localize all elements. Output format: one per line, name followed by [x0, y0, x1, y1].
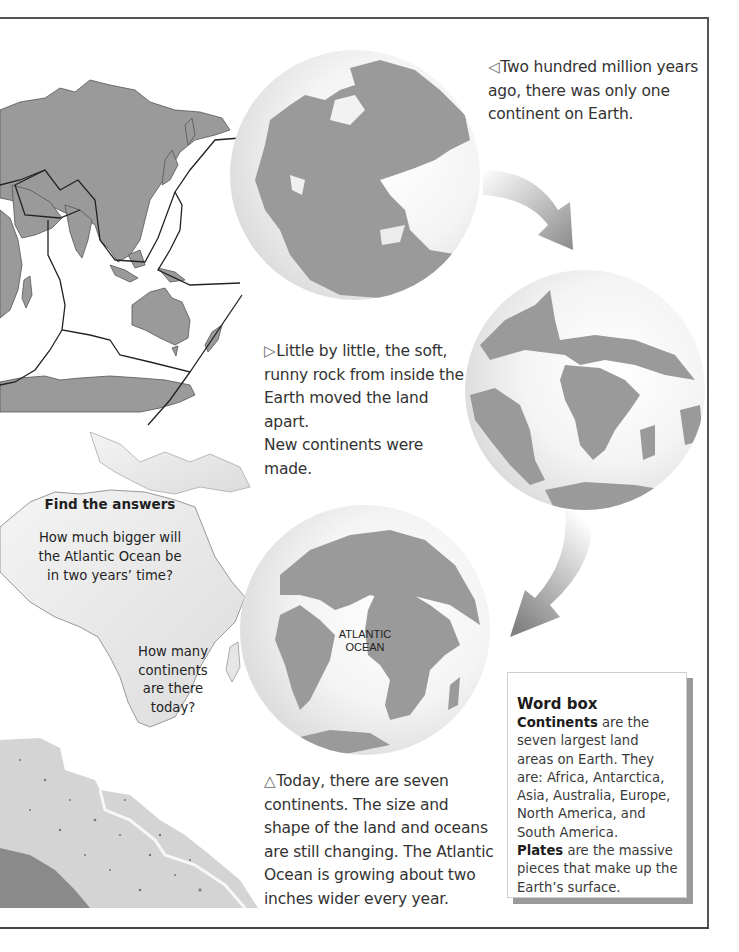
question-atlantic-growth: How much bigger will the Atlantic Ocean …	[20, 528, 200, 585]
globe-splitting-continents	[465, 270, 705, 510]
find-answers-panel: Find the answers How much bigger will th…	[20, 495, 200, 585]
word-box-entry-continents: Continents are the seven largest land ar…	[517, 714, 678, 842]
triangle-left-icon: ◁	[488, 58, 499, 76]
arrow-to-today-globe	[505, 505, 615, 645]
seafloor-terrain	[0, 720, 270, 910]
word-box: Word box Continents are the seven larges…	[507, 672, 687, 898]
page-border-bottom	[0, 927, 709, 929]
find-answers-title: Find the answers	[20, 495, 200, 514]
page-border-right	[707, 17, 709, 929]
caption-pangaea: ◁Two hundred million years ago, there wa…	[488, 56, 708, 127]
plate-boundary-map	[0, 40, 245, 432]
atlantic-ocean-label: ATLANTIC OCEAN	[325, 628, 405, 654]
caption-splitting: ▷Little by little, the soft, runny rock …	[264, 340, 474, 481]
caption-today: △Today, there are seven continents. The …	[264, 770, 504, 911]
globe-today: ATLANTIC OCEAN	[240, 505, 490, 755]
word-box-entry-plates: Plates are the massive pieces that make …	[517, 842, 678, 897]
arrow-to-middle-globe	[478, 150, 598, 260]
triangle-up-icon: △	[264, 772, 275, 790]
triangle-right-icon: ▷	[264, 342, 275, 360]
globe-pangaea	[230, 50, 480, 300]
page-border-top	[0, 17, 709, 19]
word-box-title: Word box	[517, 695, 678, 714]
question-continents-count: How many continents are there today?	[118, 643, 228, 717]
